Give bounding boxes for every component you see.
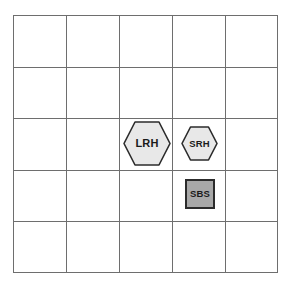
diagram-canvas: LRH SRH SBS xyxy=(0,0,292,288)
shape-sbs-square[interactable]: SBS xyxy=(185,179,215,209)
shape-srh-hexagon[interactable]: SRH xyxy=(181,126,218,161)
shape-lrh-hexagon[interactable]: LRH xyxy=(123,121,171,166)
shape-layer: LRH SRH SBS xyxy=(0,0,292,288)
shape-sbs-label: SBS xyxy=(190,189,210,199)
shape-srh-label: SRH xyxy=(189,139,210,149)
shape-lrh-label: LRH xyxy=(135,138,158,149)
